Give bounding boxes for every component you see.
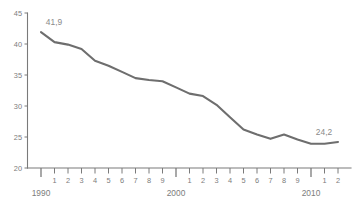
x-tick-label: 5: [106, 176, 110, 185]
x-tick-label: 8: [282, 176, 286, 185]
x-tick-label: 3: [214, 176, 218, 185]
x-tick-label: 1: [52, 176, 56, 185]
x-tick-label: 6: [255, 176, 259, 185]
chart-container: 202530354045 199012345678920001234567892…: [0, 0, 355, 207]
x-axis-year-label: 2010: [302, 188, 321, 198]
x-tick-label: 7: [133, 176, 137, 185]
x-tick-label: 8: [147, 176, 151, 185]
x-tick-label: 6: [120, 176, 124, 185]
y-axis: 202530354045: [14, 9, 28, 173]
y-tick-label: 20: [14, 164, 22, 173]
y-tick-label: 30: [14, 102, 22, 111]
x-tick-label: 2: [336, 176, 340, 185]
x-tick-label: 9: [160, 176, 164, 185]
x-tick-label: 1: [322, 176, 326, 185]
line-chart: 202530354045 199012345678920001234567892…: [0, 0, 355, 207]
x-tick-label: 2: [66, 176, 70, 185]
data-labels: 41,924,2: [46, 17, 333, 137]
last-point-label: 24,2: [316, 127, 333, 137]
x-tick-label: 4: [93, 176, 97, 185]
y-tick-label: 35: [14, 71, 22, 80]
x-axis-year-label: 1990: [32, 188, 51, 198]
x-tick-label: 9: [295, 176, 299, 185]
x-tick-label: 7: [268, 176, 272, 185]
y-tick-label: 40: [14, 40, 22, 49]
y-tick-label: 25: [14, 133, 22, 142]
y-tick-label: 45: [14, 9, 22, 18]
data-series: [41, 32, 338, 144]
x-tick-label: 1: [187, 176, 191, 185]
first-point-label: 41,9: [46, 17, 63, 27]
x-axis-year-label: 2000: [167, 188, 186, 198]
x-tick-label: 3: [79, 176, 83, 185]
x-tick-label: 4: [228, 176, 232, 185]
x-tick-label: 5: [241, 176, 245, 185]
x-tick-label: 2: [201, 176, 205, 185]
series-line-path: [41, 32, 338, 144]
x-axis: 19901234567892000123456789201012: [28, 168, 352, 198]
